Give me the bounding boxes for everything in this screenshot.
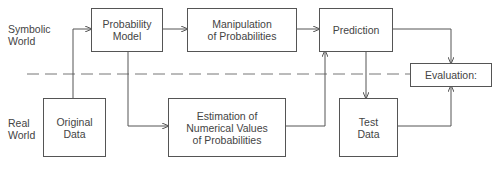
- probability-model-label: Probability Model: [102, 18, 151, 42]
- estimation-box: Estimation of Numerical Values of Probab…: [168, 98, 286, 157]
- edge-model-to-estimation: [128, 51, 168, 126]
- test-data-label: Test Data: [357, 116, 379, 140]
- edge-prediction-to-evaluation: [392, 29, 451, 63]
- manipulation-box: Manipulation of Probabilities: [187, 8, 297, 52]
- probability-model-box: Probability Model: [91, 8, 163, 52]
- real-world-label: Real World: [8, 117, 35, 141]
- edge-original-to-model: [73, 29, 91, 98]
- prediction-label: Prediction: [333, 24, 380, 36]
- evaluation-label: Evaluation:: [425, 69, 477, 81]
- evaluation-box: Evaluation:: [410, 63, 492, 87]
- test-data-box: Test Data: [339, 98, 398, 157]
- symbolic-world-label: Symbolic World: [8, 23, 51, 47]
- edge-estimation-to-prediction: [285, 51, 325, 126]
- probability-workflow-diagram: Symbolic World Real World Probability Mo…: [0, 0, 500, 170]
- edge-testdata-to-evaluation: [397, 86, 451, 126]
- prediction-box: Prediction: [319, 8, 393, 52]
- estimation-label: Estimation of Numerical Values of Probab…: [186, 110, 268, 146]
- original-data-label: Original Data: [56, 116, 92, 140]
- manipulation-label: Manipulation of Probabilities: [208, 18, 277, 42]
- original-data-box: Original Data: [43, 98, 106, 157]
